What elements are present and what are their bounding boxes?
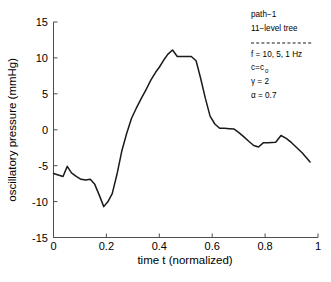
y-tick-label: 10 <box>36 52 48 64</box>
annotation-tree-label: 11−level tree <box>251 24 298 33</box>
x-tick-marks <box>54 234 319 238</box>
annotation-compliance-main: c=c <box>251 63 264 72</box>
oscillatory-pressure-line-chart: 15 10 5 0 -5 -10 -15 0 0.2 0.4 0.6 0.8 1… <box>0 0 331 282</box>
y-tick-label: 0 <box>42 124 48 136</box>
chart-figure: 15 10 5 0 -5 -10 -15 0 0.2 0.4 0.6 0.8 1… <box>0 0 331 282</box>
y-tick-label: 5 <box>42 88 48 100</box>
x-tick-label: 0.8 <box>257 240 272 252</box>
annotation-path-label: path−1 <box>251 10 277 19</box>
y-tick-label: -10 <box>32 196 48 208</box>
x-tick-labels: 0 0.2 0.4 0.6 0.8 1 <box>50 240 321 252</box>
x-tick-label: 1 <box>315 240 321 252</box>
annotation-compliance-subscript: 0 <box>265 68 269 74</box>
x-axis-title: time t (normalized) <box>137 254 232 266</box>
y-tick-marks <box>54 22 58 238</box>
x-tick-label: 0.2 <box>99 240 114 252</box>
y-axis-title: oscillatory pressure (mmHg) <box>6 58 18 202</box>
data-series-path-1 <box>54 50 311 207</box>
annotation-frequency: f = 10, 5, 1 Hz <box>251 50 302 59</box>
annotation-block: path−1 11−level tree f = 10, 5, 1 Hz c=c… <box>251 10 313 100</box>
annotation-gamma: γ = 2 <box>251 77 269 86</box>
y-tick-label: -15 <box>32 232 48 244</box>
annotation-alpha: α = 0.7 <box>251 91 277 100</box>
y-tick-labels: 15 10 5 0 -5 -10 -15 <box>32 16 48 244</box>
annotation-compliance: c=c 0 <box>251 63 269 74</box>
x-tick-label: 0 <box>50 240 56 252</box>
x-tick-label: 0.6 <box>205 240 220 252</box>
x-tick-label: 0.4 <box>152 240 167 252</box>
y-tick-label: -5 <box>38 160 48 172</box>
y-tick-label: 15 <box>36 16 48 28</box>
